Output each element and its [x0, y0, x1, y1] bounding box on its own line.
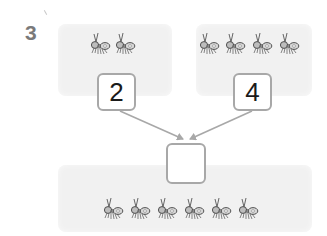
ant-icon — [89, 31, 111, 55]
ant-icon — [183, 196, 205, 220]
ant-icon — [278, 31, 300, 55]
ant-icon — [129, 196, 151, 220]
right-number-box: 4 — [233, 73, 272, 111]
decorative-tick — [44, 10, 47, 15]
question-number: 3 — [25, 22, 37, 43]
ant-icon — [224, 31, 246, 55]
ant-icon — [198, 31, 220, 55]
ant-icon — [156, 196, 178, 220]
ant-icon — [251, 31, 273, 55]
ant-icon — [114, 31, 136, 55]
arrow-icon — [190, 111, 252, 139]
answer-box[interactable] — [166, 143, 206, 184]
ant-icon — [210, 196, 232, 220]
ant-icon — [237, 196, 259, 220]
ant-icon — [102, 196, 124, 220]
left-number-box: 2 — [97, 73, 136, 111]
arrow-icon — [120, 111, 183, 139]
